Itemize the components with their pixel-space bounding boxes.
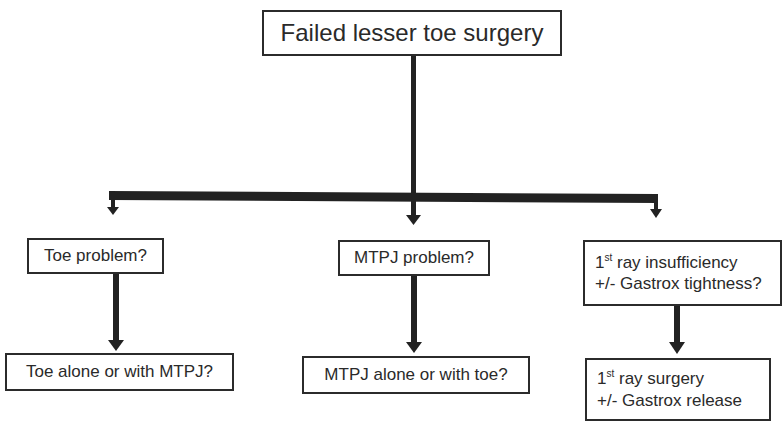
middle-drop-line: [411, 200, 416, 216]
middle-drop-arrow-icon: [406, 215, 421, 225]
toe-problem-node: Toe problem?: [27, 238, 164, 274]
left-drop-line: [111, 199, 115, 208]
left-connector-arrow-icon: [108, 340, 124, 351]
right-connector-line: [674, 306, 680, 344]
middle-connector-arrow-icon: [406, 342, 422, 353]
mtpj-problem-node: MTPJ problem?: [338, 240, 490, 276]
toe-alone-label: Toe alone or with MTPJ?: [26, 361, 213, 382]
first-ray-insufficiency-node: 1st ray insufficiency +/- Gastrox tightn…: [583, 240, 782, 306]
left-connector-line: [113, 274, 119, 342]
mtpj-alone-node: MTPJ alone or with toe?: [302, 356, 530, 394]
first-ray-insufficiency-line-2: +/- Gastrox tightness?: [595, 273, 762, 294]
left-drop-arrow-icon: [107, 207, 119, 215]
toe-alone-node: Toe alone or with MTPJ?: [5, 353, 234, 391]
root-label: Failed lesser toe surgery: [281, 18, 544, 48]
right-drop-arrow-icon: [650, 209, 662, 218]
first-ray-insufficiency-line-1: 1st ray insufficiency: [595, 252, 738, 273]
distribution-bar: [109, 191, 658, 203]
line-text: ray insufficiency: [612, 253, 737, 272]
right-connector-arrow-icon: [669, 342, 685, 354]
root-node: Failed lesser toe surgery: [262, 10, 562, 56]
mtpj-alone-label: MTPJ alone or with toe?: [324, 364, 507, 385]
first-ray-surgery-line-2: +/- Gastrox release: [597, 390, 742, 411]
right-drop-line: [654, 200, 658, 210]
toe-problem-label: Toe problem?: [44, 245, 147, 266]
line-text: ray surgery: [614, 369, 704, 388]
first-ray-surgery-line-1: 1st ray surgery: [597, 368, 704, 389]
flowchart-canvas: Failed lesser toe surgery Toe problem? T…: [0, 0, 784, 431]
mtpj-problem-label: MTPJ problem?: [354, 247, 474, 268]
root-stem-line: [411, 56, 416, 196]
middle-connector-line: [411, 276, 417, 344]
first-ray-surgery-node: 1st ray surgery +/- Gastrox release: [585, 358, 771, 421]
